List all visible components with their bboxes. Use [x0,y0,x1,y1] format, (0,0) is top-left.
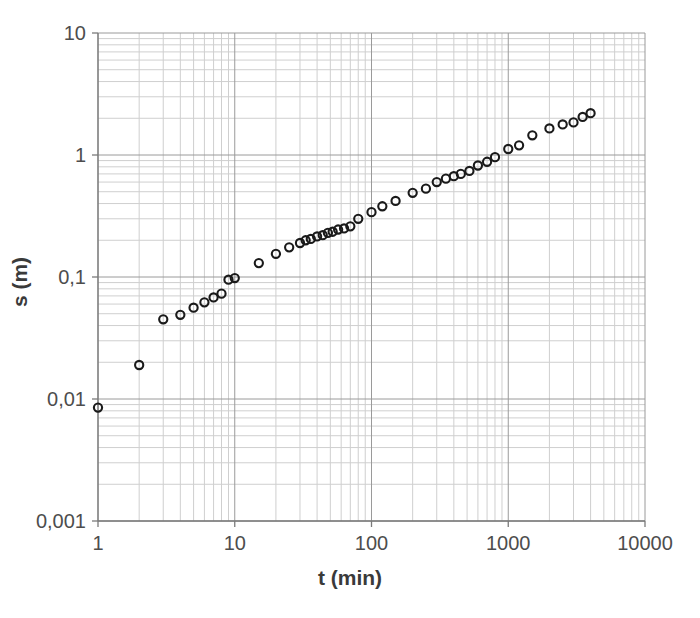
y-tick-label: 10 [0,22,86,45]
x-axis-title: t (min) [0,566,700,590]
data-point [515,141,523,149]
x-tick-label: 100 [355,532,388,555]
tick-marks [92,33,645,527]
data-point [255,259,263,267]
x-tick-label: 1000 [486,532,531,555]
y-axis-title: s (m) [8,232,32,332]
y-tick-label: 0,01 [0,388,86,411]
x-tick-label: 1 [92,532,103,555]
data-point [528,131,536,139]
data-point [559,120,567,128]
chart-figure: 1010,10,010,001 110100100010000 t (min) … [0,0,700,618]
x-tick-label: 10 [224,532,246,555]
data-point [285,243,293,251]
plot-canvas [0,0,700,618]
y-tick-label: 0,001 [0,510,86,533]
y-tick-label: 1 [0,144,86,167]
x-tick-label: 10000 [617,532,673,555]
